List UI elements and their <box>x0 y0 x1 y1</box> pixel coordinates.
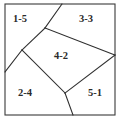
figure-container: 1-5 3-3 4-2 2-4 5-1 <box>0 0 120 127</box>
region-label-center: 4-2 <box>54 50 68 61</box>
region-label-bottom-right: 5-1 <box>88 87 102 98</box>
region-label-top-left: 1-5 <box>13 13 27 24</box>
partition-diagram: 1-5 3-3 4-2 2-4 5-1 <box>0 0 120 127</box>
region-label-bottom-left: 2-4 <box>18 87 33 98</box>
region-label-top-right: 3-3 <box>79 13 93 24</box>
